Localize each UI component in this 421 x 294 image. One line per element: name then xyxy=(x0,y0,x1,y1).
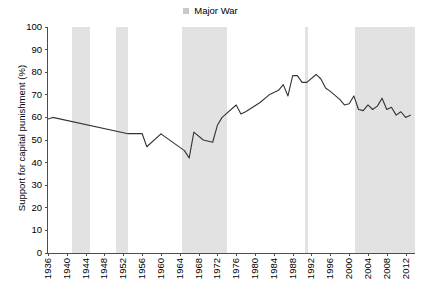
y-axis-tick-mark xyxy=(45,49,48,50)
x-axis-tick-mark xyxy=(217,253,218,256)
square-swatch-icon xyxy=(183,8,189,14)
y-axis-tick-mark xyxy=(45,94,48,95)
chart-container: Major War Support for capital punishment… xyxy=(0,0,421,294)
x-axis-tick-label: 1956 xyxy=(137,258,147,279)
x-axis-tick-label: 1940 xyxy=(62,258,72,279)
y-axis-tick-label: 90 xyxy=(31,45,45,55)
x-axis-tick-mark xyxy=(311,253,312,256)
x-axis-tick-label: 1960 xyxy=(156,258,166,279)
y-axis-tick-label: 60 xyxy=(31,112,45,122)
y-axis-tick: 40 xyxy=(3,158,48,168)
y-axis-tick: 80 xyxy=(3,67,48,77)
plot-area: 0102030405060708090100 19361940194419481… xyxy=(47,27,415,254)
x-axis-tick-mark xyxy=(142,253,143,256)
x-axis-tick-label: 2012 xyxy=(401,258,411,279)
x-axis-tick-label: 1968 xyxy=(194,258,204,279)
y-axis-tick-mark xyxy=(45,27,48,28)
y-axis-tick-mark xyxy=(45,207,48,208)
x-axis-tick-label: 1948 xyxy=(99,258,109,279)
x-axis-tick-mark xyxy=(86,253,87,256)
series-line-layer xyxy=(48,27,415,253)
y-axis-tick: 0 xyxy=(3,248,48,258)
y-axis-tick: 60 xyxy=(3,112,48,122)
chart-legend: Major War xyxy=(0,3,421,19)
y-axis-tick-mark xyxy=(45,72,48,73)
x-axis-tick-mark xyxy=(349,253,350,256)
x-axis-tick-mark xyxy=(293,253,294,256)
x-axis-tick-label: 1996 xyxy=(325,258,335,279)
x-axis-tick-label: 1988 xyxy=(288,258,298,279)
y-axis-tick-label: 30 xyxy=(31,180,45,190)
y-axis-tick-label: 50 xyxy=(31,135,45,145)
y-axis-tick-label: 40 xyxy=(31,158,45,168)
y-axis-tick: 30 xyxy=(3,180,48,190)
x-axis-tick-mark xyxy=(161,253,162,256)
x-axis-tick-mark xyxy=(104,253,105,256)
x-axis-tick-label: 2000 xyxy=(344,258,354,279)
y-axis-tick: 20 xyxy=(3,203,48,213)
y-axis-tick-mark xyxy=(45,230,48,231)
x-axis-tick-mark xyxy=(368,253,369,256)
legend-label: Major War xyxy=(194,6,237,16)
x-axis-tick-label: 1952 xyxy=(118,258,128,279)
y-axis-tick-mark xyxy=(45,185,48,186)
y-axis-tick: 100 xyxy=(3,22,48,32)
x-axis-tick-mark xyxy=(123,253,124,256)
y-axis-tick-label: 70 xyxy=(31,90,45,100)
x-axis-tick-mark xyxy=(387,253,388,256)
y-axis-tick-label: 10 xyxy=(31,225,45,235)
y-axis-tick: 90 xyxy=(3,45,48,55)
x-axis-tick-label: 1936 xyxy=(43,258,53,279)
legend-entry-major-war: Major War xyxy=(183,6,237,16)
x-axis-tick-mark xyxy=(180,253,181,256)
x-axis-tick-mark xyxy=(330,253,331,256)
x-axis-tick-mark xyxy=(48,253,49,256)
x-axis-tick-label: 1980 xyxy=(250,258,260,279)
x-axis-tick-mark xyxy=(236,253,237,256)
x-axis-tick-label: 2004 xyxy=(363,258,373,279)
series-line-support xyxy=(48,74,410,158)
y-axis-tick-mark xyxy=(45,117,48,118)
x-axis-tick-mark xyxy=(199,253,200,256)
y-axis-tick: 50 xyxy=(3,135,48,145)
x-axis-tick-label: 1984 xyxy=(269,258,279,279)
y-axis-tick: 70 xyxy=(3,90,48,100)
y-axis-tick-label: 100 xyxy=(26,22,45,32)
x-axis-tick-label: 1992 xyxy=(306,258,316,279)
x-axis-tick-mark xyxy=(255,253,256,256)
y-axis-tick-label: 80 xyxy=(31,67,45,77)
x-axis-tick-mark xyxy=(274,253,275,256)
x-axis-tick-label: 1964 xyxy=(175,258,185,279)
x-axis-tick-label: 2008 xyxy=(382,258,392,279)
x-axis-tick-mark xyxy=(67,253,68,256)
x-axis-tick-mark xyxy=(406,253,407,256)
x-axis-tick-label: 1972 xyxy=(212,258,222,279)
y-axis-tick-mark xyxy=(45,140,48,141)
y-axis-tick: 10 xyxy=(3,225,48,235)
y-axis-tick-mark xyxy=(45,162,48,163)
y-axis-tick-label: 0 xyxy=(37,248,45,258)
x-axis-tick-label: 1944 xyxy=(81,258,91,279)
y-axis-tick-label: 20 xyxy=(31,203,45,213)
x-axis-tick-label: 1976 xyxy=(231,258,241,279)
